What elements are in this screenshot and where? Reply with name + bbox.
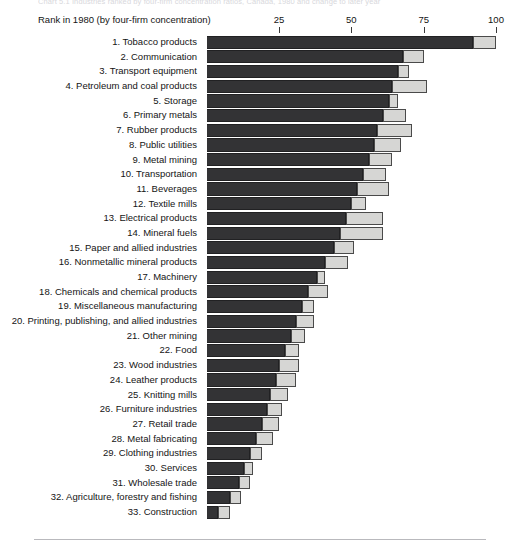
bar-segment-dark [207,212,346,225]
category-label: 22. Food [0,343,203,358]
bar-segment-dark [207,80,392,93]
bar-segment-light [276,373,296,386]
table-row [207,505,507,520]
table-row [207,388,507,403]
bar-segment-dark [207,168,363,181]
category-label: 6. Primary metals [0,108,203,123]
bar-segment-light [218,506,230,519]
table-row [207,79,507,94]
bar-segment-dark [207,506,219,519]
table-row [207,373,507,388]
bar-segment-light [403,50,423,63]
table-row [207,343,507,358]
bar-segment-dark [207,197,352,210]
bar-segment-light [383,109,406,122]
category-label: 12. Textile mills [0,197,203,212]
bar-segment-light [308,285,328,298]
x-axis: Rank in 1980 (by four-firm concentration… [0,14,520,34]
table-row [207,402,507,417]
bar-segment-dark [207,256,326,269]
category-label: 13. Electrical products [0,211,203,226]
category-label: 3. Transport equipment [0,64,203,79]
bar-segment-light [291,329,305,342]
bar-segment-light [334,241,354,254]
table-row [207,490,507,505]
bar-segment-dark [207,124,378,137]
category-label: 31. Wholesale trade [0,476,203,491]
plot-area [207,35,507,520]
category-label: 23. Wood industries [0,358,203,373]
category-label: 4. Petroleum and coal products [0,79,203,94]
axis-tick-mark-25 [279,27,280,33]
bar-segment-dark [207,50,404,63]
bar-segment-light [369,153,392,166]
bar-segment-dark [207,315,297,328]
bar-segment-dark [207,462,245,475]
bar-segment-dark [207,65,398,78]
table-row [207,35,507,50]
category-label: 11. Beverages [0,182,203,197]
bar-segment-dark [207,300,302,313]
table-row [207,94,507,109]
bar-segment-dark [207,271,317,284]
bar-segment-light [262,417,279,430]
bar-segment-dark [207,373,276,386]
category-label: 2. Communication [0,50,203,65]
category-label: 15. Paper and allied industries [0,241,203,256]
table-row [207,226,507,241]
table-row [207,299,507,314]
table-row [207,476,507,491]
axis-tick-label-100: 100 [488,14,504,25]
category-label: 28. Metal fabricating [0,432,203,447]
axis-tick-mark-50 [351,27,352,33]
table-row [207,417,507,432]
category-label: 30. Services [0,461,203,476]
category-label: 16. Nonmetallic mineral products [0,255,203,270]
table-row [207,270,507,285]
concentration-ranking-chart: Chart 5.1 Industries ranked by four-firm… [0,0,520,551]
category-label: 26. Furniture industries [0,402,203,417]
bar-segment-dark [207,94,389,107]
bar-segment-light [279,359,299,372]
bar-segment-light [340,227,383,240]
bar-segment-light [363,168,386,181]
bar-segment-light [346,212,384,225]
bar-segment-dark [207,138,375,151]
bar-segment-dark [207,36,473,49]
bar-segment-dark [207,447,250,460]
axis-tick-mark-100 [496,27,497,33]
bar-segment-light [285,344,299,357]
bar-segment-light [302,300,314,313]
bar-segment-light [296,315,313,328]
bar-segment-dark [207,476,239,489]
table-row [207,358,507,373]
bar-segment-light [230,491,242,504]
table-row [207,123,507,138]
bar-segment-dark [207,403,268,416]
axis-tick-mark-75 [424,27,425,33]
table-row [207,461,507,476]
bar-segment-dark [207,491,230,504]
table-row [207,108,507,123]
bar-segment-dark [207,227,340,240]
bar-segment-light [392,80,427,93]
bar-segment-dark [207,359,279,372]
bar-segment-light [351,197,365,210]
category-label: 17. Machinery [0,270,203,285]
category-label: 18. Chemicals and chemical products [0,285,203,300]
axis-tick-label-50: 50 [346,14,357,25]
table-row [207,153,507,168]
category-label: 14. Mineral fuels [0,226,203,241]
bar-segment-light [244,462,253,475]
bar-segment-dark [207,241,334,254]
bar-segment-dark [207,182,357,195]
bar-segment-light [377,124,412,137]
table-row [207,285,507,300]
category-label: 7. Rubber products [0,123,203,138]
category-label: 9. Metal mining [0,153,203,168]
bar-segment-dark [207,285,308,298]
table-row [207,182,507,197]
axis-tick-label-25: 25 [274,14,285,25]
table-row [207,197,507,212]
bar-segment-light [270,388,287,401]
